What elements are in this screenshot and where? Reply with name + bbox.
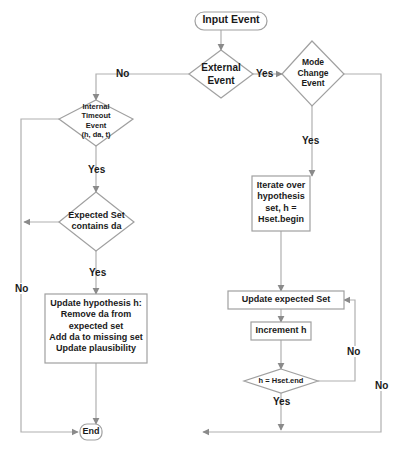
end-label: End — [80, 426, 102, 437]
edge-label-internal-no: No — [15, 283, 28, 294]
external-event-line-2: Event — [189, 75, 253, 88]
edge-loop-no — [318, 300, 355, 381]
expected-set-line-2: contains da — [59, 221, 134, 232]
input-event-label: Input Event — [195, 13, 267, 26]
external-event-line-1: External — [189, 62, 253, 75]
edge-label-external-yes: Yes — [256, 68, 273, 79]
internal-timeout-line-3: Event — [59, 121, 133, 130]
update-hypothesis-label: Update hypothesis h: Remove da from expe… — [45, 298, 147, 354]
h-equals-end-label: h = Hset.end — [244, 376, 318, 385]
edge-label-mode-no: No — [375, 380, 388, 391]
mode-change-label: Mode Change Event — [282, 57, 344, 89]
mode-change-line-2: Change — [282, 68, 344, 79]
update-hypothesis-line-5: Update plausibility — [45, 343, 147, 354]
edge-label-external-no: No — [116, 68, 129, 79]
iterate-line-3: set, h = — [252, 203, 310, 214]
increment-h-label: Increment h — [251, 325, 311, 336]
edge-external-no — [96, 74, 189, 100]
edge-label-loop-yes: Yes — [273, 396, 290, 407]
internal-timeout-line-2: Timeout — [59, 111, 133, 120]
edge-internal-no — [21, 119, 78, 432]
iterate-label: Iterate over hypothesis set, h = Hset.be… — [252, 180, 310, 225]
external-event-label: External Event — [189, 62, 253, 87]
update-hypothesis-line-1: Update hypothesis h: — [45, 298, 147, 309]
edge-label-internal-yes: Yes — [88, 164, 105, 175]
expected-set-label: Expected Set contains da — [59, 210, 134, 233]
iterate-line-1: Iterate over — [252, 180, 310, 191]
internal-timeout-line-4: (h, da, t) — [59, 130, 133, 139]
iterate-line-2: hypothesis — [252, 191, 310, 202]
expected-set-line-1: Expected Set — [59, 210, 134, 221]
internal-timeout-label: Internal Timeout Event (h, da, t) — [59, 102, 133, 140]
update-expected-set-label: Update expected Set — [228, 294, 344, 305]
internal-timeout-line-1: Internal — [59, 102, 133, 111]
update-hypothesis-line-2: Remove da from — [45, 309, 147, 320]
edge-label-expected-yes: Yes — [89, 267, 106, 278]
mode-change-line-3: Event — [282, 78, 344, 89]
mode-change-line-1: Mode — [282, 57, 344, 68]
edge-label-mode-yes: Yes — [302, 135, 319, 146]
edge-label-loop-no: No — [347, 346, 360, 357]
iterate-line-4: Hset.begin — [252, 214, 310, 225]
update-hypothesis-line-4: Add da to missing set — [45, 332, 147, 343]
update-hypothesis-line-3: expected set — [45, 321, 147, 332]
